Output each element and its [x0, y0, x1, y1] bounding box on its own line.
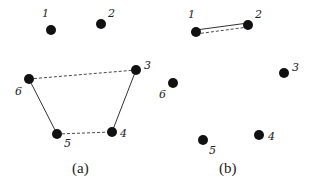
node-5 — [52, 129, 62, 139]
node-label-3: 3 — [144, 59, 151, 72]
edge-1-2-solid — [196, 23, 248, 30]
caption-a: (a) — [72, 160, 89, 177]
diagram-canvas: 1 2 3 4 5 6 (a) 1 2 3 4 5 6 (b) — [0, 0, 311, 189]
edge-6-5 — [29, 79, 57, 134]
caption-b: (b) — [219, 160, 237, 177]
node-label-1: 1 — [42, 7, 49, 20]
node-label-6: 6 — [15, 85, 22, 98]
edge-5-4-dashed — [57, 132, 112, 134]
node-3 — [131, 65, 141, 75]
node-label-4: 4 — [267, 130, 275, 143]
edge-1-2-dashed — [196, 27, 248, 34]
node-6 — [168, 78, 178, 88]
node-4 — [107, 127, 117, 137]
edge-6-3-dashed — [29, 70, 136, 79]
panel-a: 1 2 3 4 5 6 (a) — [15, 7, 151, 177]
node-label-3: 3 — [292, 61, 299, 74]
node-label-5: 5 — [64, 137, 71, 150]
node-label-1: 1 — [188, 8, 195, 21]
node-label-5: 5 — [209, 144, 216, 157]
node-3 — [279, 68, 289, 78]
node-1 — [191, 27, 201, 37]
node-6 — [24, 74, 34, 84]
node-1 — [46, 25, 56, 35]
node-2 — [96, 19, 106, 29]
node-label-4: 4 — [119, 127, 127, 140]
node-2 — [243, 20, 253, 30]
node-label-2: 2 — [254, 8, 262, 21]
panel-b: 1 2 3 4 5 6 (b) — [159, 8, 299, 177]
node-5 — [198, 135, 208, 145]
edge-3-4 — [112, 70, 136, 132]
node-label-2: 2 — [107, 7, 115, 20]
node-label-6: 6 — [159, 88, 166, 101]
node-4 — [254, 130, 264, 140]
